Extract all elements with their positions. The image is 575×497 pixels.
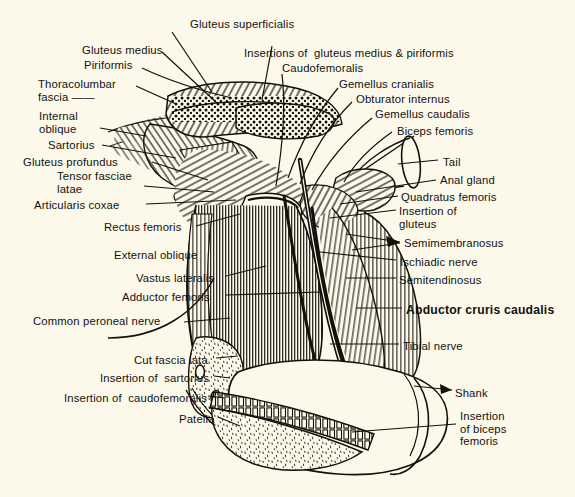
label-rectus-femoris: Rectus femoris bbox=[104, 221, 181, 234]
label-obturator-internus: Obturator internus bbox=[356, 93, 450, 106]
label-insertion-of-gluteus: Insertion of gluteus bbox=[399, 205, 457, 230]
label-internal-oblique: Internal oblique bbox=[39, 110, 78, 135]
label-insertions-gluteus-medius-piriformis: Insertions of gluteus medius & piriformi… bbox=[244, 47, 454, 60]
label-adductor femoris: Adductor femoris bbox=[122, 291, 210, 304]
label-gluteus-superficialis: Gluteus superficialis bbox=[190, 18, 294, 31]
label-anal-gland: Anal gland bbox=[440, 174, 495, 187]
label-articularis-coxae: Articularis coxae bbox=[34, 199, 119, 212]
label-abductor-cruris-caudalis: Abductor cruris caudalis bbox=[406, 304, 554, 317]
label-vastus-lateralis: Vastus lateralis bbox=[136, 272, 214, 285]
label-cut-fascia-lata: Cut fascia lata bbox=[134, 354, 208, 367]
label-gluteus-profundus: Gluteus profundus bbox=[23, 156, 118, 169]
label-thoracolumbar-fascia: Thoracolumbar fascia —— bbox=[38, 78, 116, 103]
label-semitendinosus: Semitendinosus bbox=[399, 274, 481, 287]
label-quadratus-femoris: Quadratus femoris bbox=[401, 191, 496, 204]
label-shank: Shank bbox=[455, 387, 488, 400]
label-biceps-femoris: Biceps femoris bbox=[397, 125, 473, 138]
label-insertion-of-biceps-femoris: Insertion of biceps femoris bbox=[460, 410, 507, 448]
label-tail: Tail bbox=[443, 156, 461, 169]
label-common-peroneal-nerve: Common peroneal nerve bbox=[33, 315, 160, 328]
anatomical-plate: Gluteus superficialisGluteus mediusInser… bbox=[0, 0, 575, 497]
label-piriformis: Piriformis bbox=[84, 59, 133, 72]
label-gemellus-cranialis: Gemellus cranialis bbox=[339, 78, 434, 91]
label-gluteus-medius: Gluteus medius bbox=[82, 44, 163, 57]
label-insertion-of-sartorius: Insertion of sartorius bbox=[100, 372, 209, 385]
label-ischiadic-nerve: Ischiadic nerve bbox=[400, 256, 478, 269]
label-tensor-fasciae-latae: Tensor fasciae latae bbox=[57, 170, 132, 195]
label-sartorius: Sartorius bbox=[48, 139, 95, 152]
label-tibial-nerve: Tibial nerve bbox=[403, 340, 463, 353]
label-insertion-of-caudofemoralis: Insertion of caudofemoralis bbox=[64, 392, 207, 405]
label-semimembranosus: Semimembranosus bbox=[404, 237, 504, 250]
label-external-oblique: External oblique bbox=[114, 249, 197, 262]
label-patella: Patella bbox=[179, 413, 215, 426]
label-gemellus-caudalis: Gemellus caudalis bbox=[375, 108, 470, 121]
label-caudofemoralis: Caudofemoralis bbox=[282, 62, 363, 75]
